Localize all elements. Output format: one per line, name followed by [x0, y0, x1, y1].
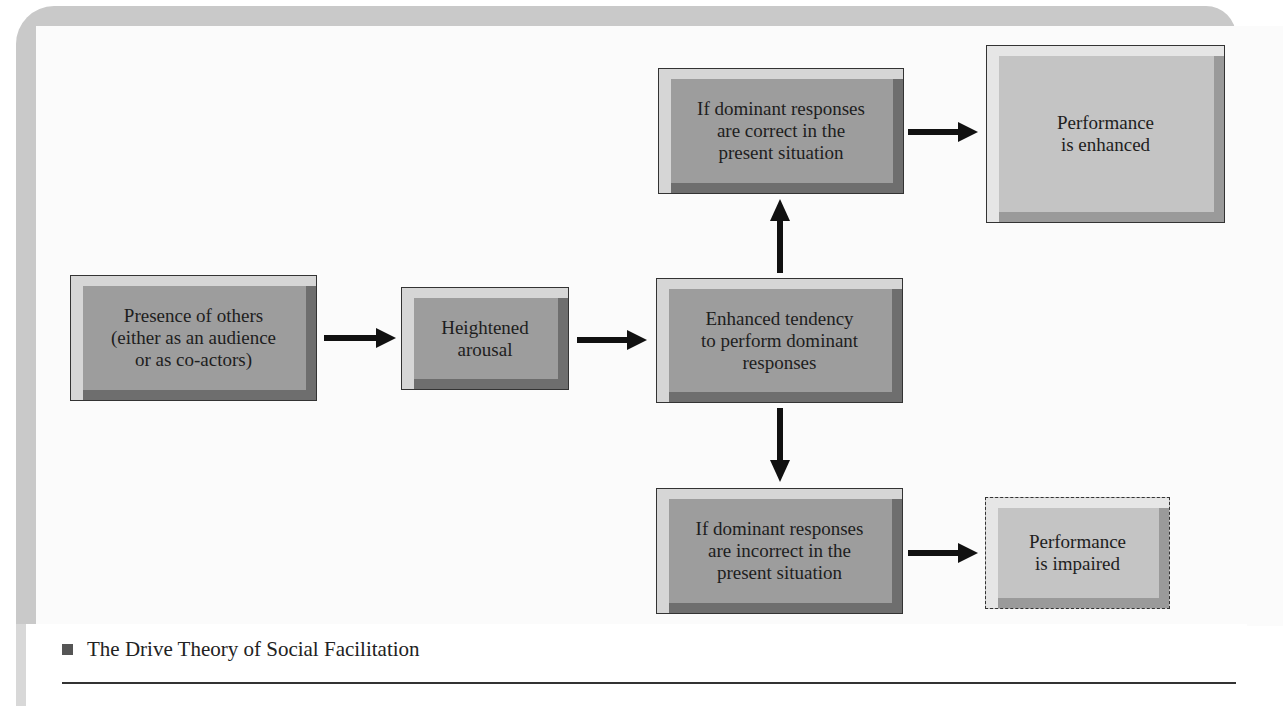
node-dominant-correct: If dominant responses are correct in the…	[658, 68, 904, 194]
node-label: Performance is impaired	[1015, 531, 1140, 575]
figure-caption: The Drive Theory of Social Facilitation	[62, 637, 420, 662]
node-dominant-incorrect: If dominant responses are incorrect in t…	[656, 488, 903, 614]
arrow-right-icon	[324, 328, 398, 348]
arrow-up-icon	[770, 199, 790, 273]
node-label: Heightened arousal	[427, 317, 543, 361]
node-performance-enhanced: Performance is enhanced	[986, 45, 1225, 223]
square-bullet-icon	[62, 644, 73, 655]
arrow-down-icon	[770, 408, 790, 482]
node-label: Performance is enhanced	[1043, 112, 1168, 156]
node-presence-of-others: Presence of others (either as an audienc…	[70, 275, 317, 401]
node-enhanced-tendency: Enhanced tendency to perform dominant re…	[656, 278, 903, 403]
caption-text: The Drive Theory of Social Facilitation	[87, 637, 420, 662]
node-label: If dominant responses are correct in the…	[683, 98, 879, 164]
arrow-right-icon	[577, 330, 649, 350]
frame-edge	[16, 624, 26, 706]
node-performance-impaired: Performance is impaired	[985, 497, 1170, 609]
node-label: Presence of others (either as an audienc…	[97, 305, 290, 371]
node-label: Enhanced tendency to perform dominant re…	[687, 308, 872, 374]
node-heightened-arousal: Heightened arousal	[401, 287, 569, 390]
caption-rule	[62, 682, 1236, 684]
node-label: If dominant responses are incorrect in t…	[682, 518, 878, 584]
arrow-right-icon	[908, 543, 980, 563]
arrow-right-icon	[908, 122, 980, 142]
